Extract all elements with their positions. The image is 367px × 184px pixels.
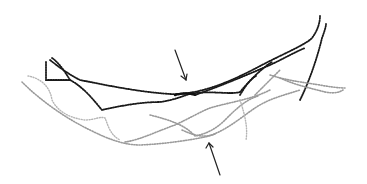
filament-drawing [0,0,367,184]
arrow-lower [206,143,220,175]
arrow-upper [175,50,187,80]
filament-figure [0,0,367,184]
dark-strands [46,16,326,110]
